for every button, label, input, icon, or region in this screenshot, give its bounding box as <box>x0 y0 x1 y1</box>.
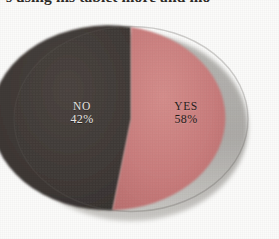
pie-label-yes-name: YES <box>159 100 213 113</box>
pie-label-no-name: NO <box>55 100 109 113</box>
scanned-page: s using his tablet more and mo <box>0 0 279 239</box>
pie-label-yes: YES 58% <box>159 100 213 126</box>
pie-chart-graphic <box>0 0 279 239</box>
pie-label-no: NO 42% <box>55 100 109 126</box>
pie-chart <box>0 0 279 239</box>
pie-label-yes-value: 58% <box>159 113 213 126</box>
pie-label-no-value: 42% <box>55 113 109 126</box>
